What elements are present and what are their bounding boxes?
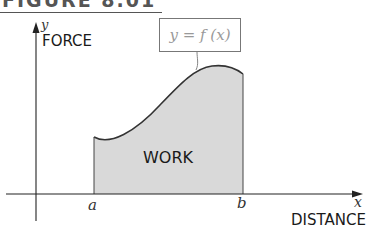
work-region xyxy=(94,66,243,194)
x-axis-symbol: x xyxy=(354,194,362,210)
y-axis-arrow-icon xyxy=(33,22,40,33)
x-axis-title: DISTANCE xyxy=(291,211,366,229)
y-axis-symbol: y xyxy=(41,17,48,32)
lower-bound-label: a xyxy=(88,196,97,214)
work-region-label: WORK xyxy=(143,148,193,167)
y-axis-title: FORCE xyxy=(42,32,92,50)
function-label: y = f (x) xyxy=(169,26,230,44)
label-leader-line xyxy=(196,52,198,70)
work-integral-diagram: FIGURE 8.01 y = f (x) y FORCE x DISTANCE… xyxy=(0,0,377,230)
function-label-box: y = f (x) xyxy=(159,18,241,52)
upper-bound-label: b xyxy=(237,194,247,212)
